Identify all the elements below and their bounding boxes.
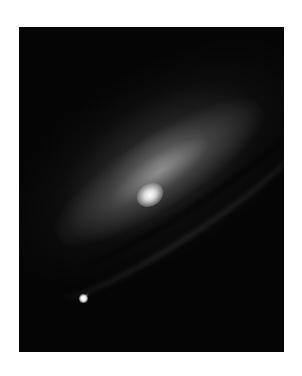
foreground-star: [79, 294, 88, 303]
galaxy-photograph: [19, 27, 284, 352]
